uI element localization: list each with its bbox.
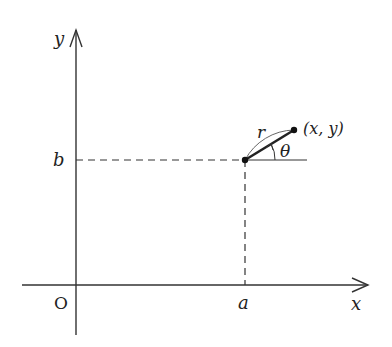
end-point (291, 127, 297, 133)
theta-label: θ (280, 141, 290, 161)
x-axis-label: x (351, 293, 361, 314)
polar-offset-diagram: y x O a b r θ (x, y) (0, 0, 392, 347)
origin-label: O (54, 293, 68, 313)
b-label: b (53, 149, 65, 170)
y-axis-label: y (53, 28, 65, 49)
point-label: (x, y) (303, 119, 344, 138)
a-label: a (238, 292, 249, 313)
y-axis (70, 30, 82, 335)
center-point (242, 157, 248, 163)
r-label: r (257, 122, 266, 142)
x-axis (22, 278, 368, 292)
